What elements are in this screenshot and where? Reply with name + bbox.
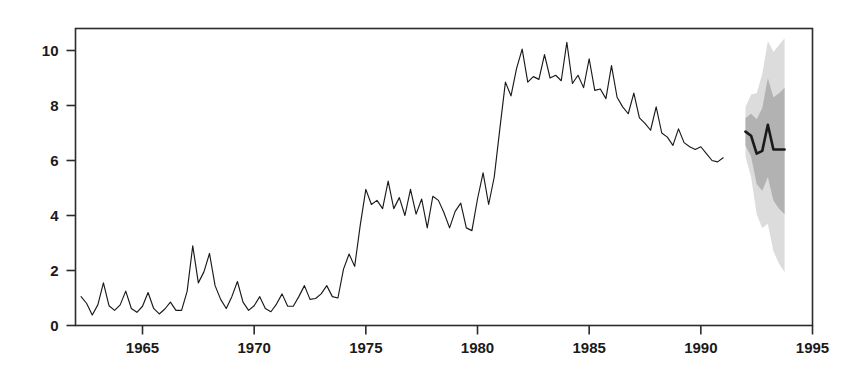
y-tick-label: 0	[50, 317, 58, 334]
plot-frame	[76, 29, 813, 326]
y-tick-label: 4	[50, 207, 59, 224]
x-tick-label: 1965	[126, 339, 159, 356]
y-axis-tick-labels: 0246810	[42, 42, 59, 334]
x-axis-tick-labels: 1965197019751980198519901995	[126, 339, 829, 356]
x-axis-ticks	[143, 326, 813, 335]
y-tick-label: 8	[50, 97, 58, 114]
time-series-forecast-chart: 1965197019751980198519901995 0246810	[0, 0, 855, 380]
observed-series-line	[81, 42, 723, 315]
x-tick-label: 1975	[349, 339, 382, 356]
y-tick-label: 2	[50, 262, 58, 279]
chart-container: 1965197019751980198519901995 0246810	[0, 0, 855, 380]
y-tick-label: 10	[42, 42, 59, 59]
x-tick-label: 1985	[572, 339, 605, 356]
x-tick-label: 1995	[796, 339, 829, 356]
y-tick-label: 6	[50, 152, 58, 169]
x-tick-label: 1980	[461, 339, 494, 356]
x-tick-label: 1970	[237, 339, 270, 356]
x-tick-label: 1990	[684, 339, 717, 356]
y-axis-ticks	[67, 51, 76, 326]
